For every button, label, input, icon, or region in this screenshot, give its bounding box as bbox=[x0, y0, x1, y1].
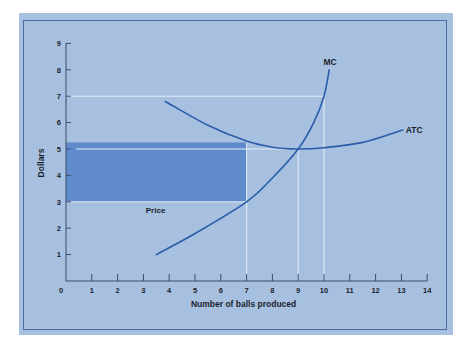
x-tick-label: 12 bbox=[371, 286, 379, 295]
x-tick-label: 3 bbox=[141, 286, 145, 295]
x-tick-label: 9 bbox=[296, 286, 300, 295]
y-axis-label: Dollars bbox=[36, 148, 46, 177]
x-tick-label: 0 bbox=[59, 286, 63, 295]
mc-label: MC bbox=[324, 57, 337, 67]
profit-rectangle bbox=[66, 142, 247, 201]
y-tick-label: 5 bbox=[57, 145, 61, 154]
x-tick-label: 2 bbox=[116, 286, 120, 295]
x-tick-label: 5 bbox=[193, 286, 197, 295]
x-tick-label: 14 bbox=[423, 286, 432, 295]
price-annotation: Price bbox=[146, 206, 166, 215]
x-tick-label: 10 bbox=[320, 286, 328, 295]
y-tick-label: 6 bbox=[57, 118, 61, 127]
y-tick-label: 3 bbox=[57, 198, 61, 207]
x-tick-label: 8 bbox=[270, 286, 274, 295]
atc-label: ATC bbox=[406, 125, 423, 135]
y-tick-label: 9 bbox=[57, 39, 61, 48]
chart-canvas: 01234567891011121314123456789Number of b… bbox=[0, 0, 467, 351]
x-tick-label: 1 bbox=[90, 286, 94, 295]
shaded-region bbox=[66, 142, 247, 201]
y-tick-label: 8 bbox=[57, 66, 61, 75]
y-tick-label: 7 bbox=[57, 92, 61, 101]
y-tick-label: 1 bbox=[57, 250, 61, 259]
x-tick-label: 11 bbox=[346, 286, 354, 295]
y-tick-label: 2 bbox=[57, 224, 61, 233]
x-tick-label: 13 bbox=[397, 286, 405, 295]
x-tick-label: 6 bbox=[219, 286, 223, 295]
x-tick-label: 7 bbox=[245, 286, 249, 295]
x-axis-label: Number of balls produced bbox=[191, 299, 296, 309]
